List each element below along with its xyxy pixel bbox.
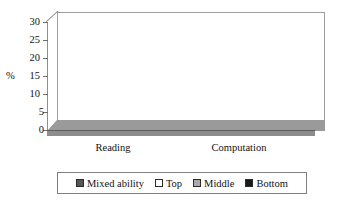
y-axis-label-15: 15 — [24, 71, 40, 81]
legend-label-top: Top — [166, 178, 182, 189]
y-axis-label-10: 10 — [24, 89, 40, 99]
y-tickmark-10 — [43, 94, 48, 95]
legend-item-top: Top — [155, 178, 182, 189]
x-axis-label-reading: Reading — [78, 142, 148, 154]
y-axis-label-5: 5 — [28, 107, 44, 117]
plot-area: % 30 25 20 15 10 5 0 Reading Computation — [0, 0, 350, 166]
y-axis-label-20: 20 — [24, 53, 40, 63]
y-tickmark-30 — [43, 22, 48, 23]
black-swatch-icon — [245, 179, 253, 187]
y-axis-label-25: 25 — [24, 35, 40, 45]
y-tickmark-20 — [43, 58, 48, 59]
y-axis-label-30: 30 — [24, 17, 40, 27]
y-tickmark-15 — [43, 76, 48, 77]
legend-label-mixed-ability: Mixed ability — [87, 178, 144, 189]
legend-item-bottom: Bottom — [245, 178, 288, 189]
legend-label-middle: Middle — [204, 178, 234, 189]
y-tickmark-25 — [43, 40, 48, 41]
y-axis-title: % — [6, 71, 15, 81]
dark-gray-swatch-icon — [76, 179, 84, 187]
x-axis-label-computation: Computation — [196, 142, 282, 154]
light-gray-swatch-icon — [193, 179, 201, 187]
legend-item-middle: Middle — [193, 178, 234, 189]
legend-item-mixed-ability: Mixed ability — [76, 178, 144, 189]
category-axis-line — [47, 130, 315, 131]
white-swatch-icon — [155, 179, 163, 187]
bar-chart: % 30 25 20 15 10 5 0 Reading Computation… — [0, 0, 350, 214]
plot-back-wall — [57, 12, 325, 130]
legend-label-bottom: Bottom — [256, 178, 288, 189]
y-axis-label-0: 0 — [28, 125, 44, 135]
chart-legend: Mixed ability Top Middle Bottom — [57, 172, 307, 194]
